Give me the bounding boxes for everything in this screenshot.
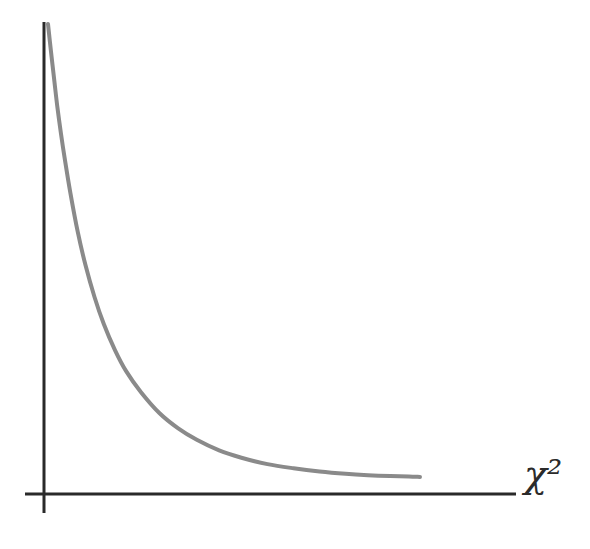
x-axis-label: χ² [524, 455, 562, 493]
chi-squared-figure: χ² [0, 0, 590, 549]
plot-area [0, 0, 590, 549]
